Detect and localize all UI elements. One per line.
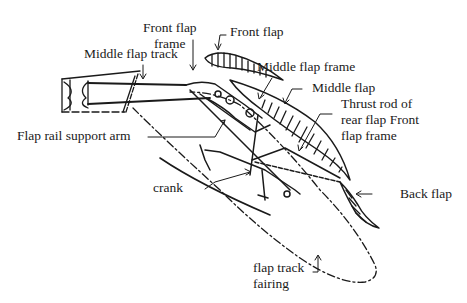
- label-line: fairing: [253, 276, 304, 292]
- back-flap: [340, 182, 379, 228]
- label-line: Thrust rod of: [341, 96, 419, 112]
- flap-mechanism-diagram: [0, 0, 467, 303]
- wing-box: [62, 71, 210, 112]
- label-middle-flap-frame: Middle flap frame: [257, 59, 355, 75]
- label-line: flap frame: [341, 128, 419, 144]
- label-crank: crank: [153, 180, 183, 196]
- label-back-flap: Back flap: [400, 186, 452, 202]
- label-middle-flap: Middle flap: [312, 80, 375, 96]
- label-middle-flap-track: Middle flap track: [84, 46, 178, 62]
- label-flap-rail-support-arm: Flap rail support arm: [17, 128, 131, 144]
- label-line: flap track: [253, 260, 304, 276]
- label-thrust-rod: Thrust rod of rear flap Front flap frame: [341, 96, 419, 144]
- label-line: Front flap: [143, 20, 197, 36]
- flap-linkages: [186, 82, 340, 200]
- label-flap-track-fairing: flap track fairing: [253, 260, 304, 292]
- label-line: rear flap Front: [341, 112, 419, 128]
- label-front-flap: Front flap: [230, 24, 284, 40]
